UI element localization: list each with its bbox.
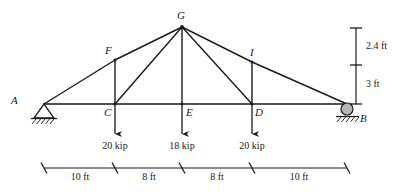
- member-I-B: [252, 62, 347, 104]
- truss-diagram-canvas: A B C D E F G I 20 kip 18 kip 20 kip 10 …: [0, 0, 398, 194]
- dimension-label-C-E: 8 ft: [127, 172, 171, 182]
- member-G-D: [182, 27, 252, 104]
- joint-dot-F: [114, 59, 117, 62]
- joint-label-F: F: [105, 45, 112, 56]
- pin-support-A: [31, 104, 57, 124]
- joint-label-I: I: [250, 47, 254, 58]
- joint-label-B: B: [360, 113, 367, 124]
- vertical-dimension-line: [350, 28, 362, 104]
- member-C-G: [115, 27, 182, 104]
- hatching-B: [337, 117, 359, 122]
- member-A-F: [44, 60, 115, 104]
- load-arrows: [115, 104, 252, 134]
- joint-dot-G: [180, 25, 184, 29]
- truss-drawing: [0, 0, 398, 194]
- roller-support-B: [336, 103, 359, 122]
- load-label-E: 18 kip: [156, 141, 208, 151]
- joint-markers: [114, 25, 254, 105]
- truss-members: [44, 27, 347, 104]
- dimension-label-A-C: 10 ft: [58, 172, 102, 182]
- joint-label-G: G: [177, 10, 185, 21]
- load-label-C: 20 kip: [89, 141, 141, 151]
- joint-label-A: A: [11, 95, 18, 106]
- dimension-label-height-lower: 3 ft: [366, 79, 380, 89]
- joint-dot-I: [251, 61, 254, 64]
- member-G-I: [182, 27, 252, 62]
- dimension-label-D-B: 10 ft: [277, 172, 321, 182]
- load-label-D: 20 kip: [226, 141, 278, 151]
- joint-label-D: D: [255, 107, 263, 118]
- joint-label-C: C: [104, 107, 111, 118]
- dimension-label-E-D: 8 ft: [195, 172, 239, 182]
- hatching-A: [32, 119, 54, 124]
- joint-label-E: E: [186, 107, 193, 118]
- member-F-G: [115, 27, 182, 60]
- dimension-label-height-upper: 2.4 ft: [366, 41, 387, 51]
